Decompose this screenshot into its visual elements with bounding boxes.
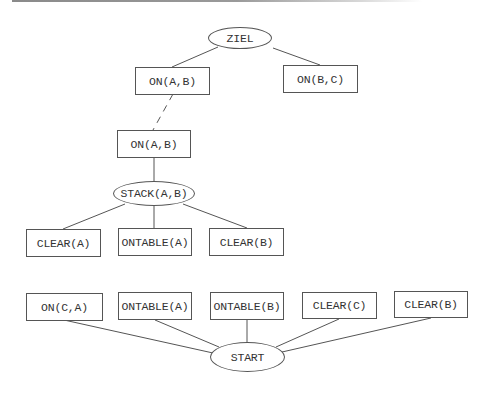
edge-start-ontable-a (155, 320, 219, 347)
node-start-clear-c: CLEAR(C) (302, 292, 377, 319)
edge-start-on-ca (64, 320, 213, 353)
edge-stack-clear-b (183, 204, 247, 228)
edge-stack-clear-a (63, 204, 125, 229)
edge-goal-on-ab (172, 47, 218, 67)
node-stack-ab: STACK(A,B) (113, 181, 195, 206)
node-pre-clear-a: CLEAR(A) (26, 229, 101, 257)
node-start: START (210, 342, 285, 372)
edges-layer (0, 0, 491, 394)
edge-dashed-on-ab (153, 94, 173, 130)
node-start-clear-b: CLEAR(B) (394, 291, 468, 318)
edge-goal-on-bc (273, 48, 320, 65)
edge-start-clear-c (276, 319, 339, 347)
node-ziel: ZIEL (208, 27, 272, 49)
node-start-on-ca: ON(C,A) (26, 293, 103, 321)
node-pre-ontable-a: ONTABLE(A) (118, 228, 192, 256)
node-start-ontable-a: ONTABLE(A) (118, 292, 192, 320)
node-start-ontable-b: ONTABLE(B) (210, 292, 284, 320)
node-sub-on-ab: ON(A,B) (117, 130, 191, 158)
edge-start-clear-b (282, 318, 431, 352)
node-goal-on-ab: ON(A,B) (135, 67, 210, 95)
node-pre-clear-b: CLEAR(B) (209, 228, 284, 256)
node-goal-on-bc: ON(B,C) (283, 65, 358, 93)
